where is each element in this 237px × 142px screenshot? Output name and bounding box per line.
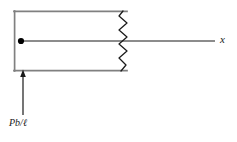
- load-label: Pb/ℓ: [9, 118, 27, 128]
- figure-root: x Pb/ℓ: [0, 0, 237, 142]
- axis-label: x: [220, 34, 225, 45]
- load-arrow: [20, 70, 26, 116]
- beam-diagram-svg: [0, 0, 237, 142]
- origin-node-dot: [18, 38, 24, 44]
